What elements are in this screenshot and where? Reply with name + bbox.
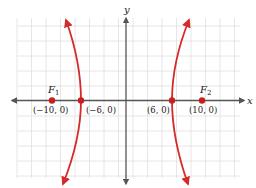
focus-f2-point [199,97,205,103]
y-axis-label: y [123,4,130,15]
vertex-left-point [78,97,84,103]
focus-f1-coord: (−10, 0) [33,105,68,115]
vertex-left-coord: (−6, 0) [86,105,116,115]
vertex-right-coord: (6, 0) [147,105,170,115]
focus-f2-coord: (10, 0) [189,105,217,115]
vertex-right-point [169,97,175,103]
hyperbola-diagram: x y F1 F2 (−10, 0) (−6, 0) (6, 0) (10, 0… [0,0,256,188]
focus-f1-point [49,97,55,103]
x-axis-label: x [247,95,253,106]
